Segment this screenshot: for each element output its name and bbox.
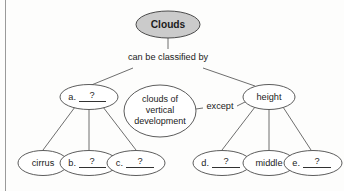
node-e-prefix: e. bbox=[292, 158, 300, 168]
node-cirrus-label: cirrus bbox=[32, 158, 55, 168]
edge-classifier-to-height bbox=[203, 68, 255, 86]
node-c-prefix: c. bbox=[116, 158, 123, 168]
node-e-answer[interactable]: ? bbox=[314, 156, 319, 166]
edge-classifier-to-a bbox=[89, 68, 133, 86]
node-vertical-development-line2: vertical bbox=[146, 105, 175, 115]
node-height[interactable]: height bbox=[243, 85, 295, 110]
edge-height-to-e bbox=[283, 107, 311, 150]
node-clouds[interactable]: Clouds bbox=[136, 11, 200, 38]
node-d-answer[interactable]: ? bbox=[223, 156, 228, 166]
node-e[interactable]: e. ? bbox=[284, 151, 342, 176]
edge-vertical-to-except bbox=[196, 108, 203, 109]
diagram-canvas: Clouds can be classified by a. ? clouds … bbox=[0, 0, 344, 191]
node-a-prefix: a. bbox=[68, 92, 76, 102]
node-d[interactable]: d. ? bbox=[193, 151, 251, 176]
edge-a-to-cirrus bbox=[43, 107, 75, 150]
node-middle-label: middle bbox=[255, 158, 282, 168]
concept-map-svg: Clouds can be classified by a. ? clouds … bbox=[0, 0, 344, 191]
node-c[interactable]: c. ? bbox=[107, 151, 165, 176]
node-vertical-development[interactable]: clouds of vertical development bbox=[124, 85, 196, 137]
edge-label-classified-by: can be classified by bbox=[128, 52, 209, 62]
edge-height-to-d bbox=[222, 107, 255, 150]
node-vertical-development-line1: clouds of bbox=[142, 94, 179, 104]
edge-label-except: except bbox=[206, 101, 234, 111]
node-c-answer[interactable]: ? bbox=[137, 156, 142, 166]
node-clouds-label: Clouds bbox=[151, 19, 186, 30]
node-height-label: height bbox=[256, 92, 281, 102]
node-a-answer[interactable]: ? bbox=[89, 90, 94, 100]
node-a[interactable]: a. ? bbox=[60, 85, 118, 110]
node-d-prefix: d. bbox=[201, 158, 209, 168]
node-b-answer[interactable]: ? bbox=[89, 156, 94, 166]
node-vertical-development-line3: development bbox=[134, 116, 186, 126]
node-b-prefix: b. bbox=[68, 158, 76, 168]
